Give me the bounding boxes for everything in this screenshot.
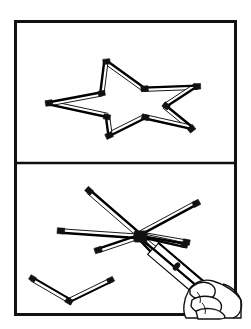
joint [103,59,111,65]
joint [103,114,110,120]
illustration-stage: Stick star assembly and disassembly Top … [0,0,251,329]
joint [45,100,53,107]
joint [98,90,105,96]
stick-star-illustration [0,0,251,329]
joint [181,242,189,248]
joint [194,83,201,89]
joint [57,228,65,234]
joint [141,86,149,92]
bundle-hub [134,231,147,242]
